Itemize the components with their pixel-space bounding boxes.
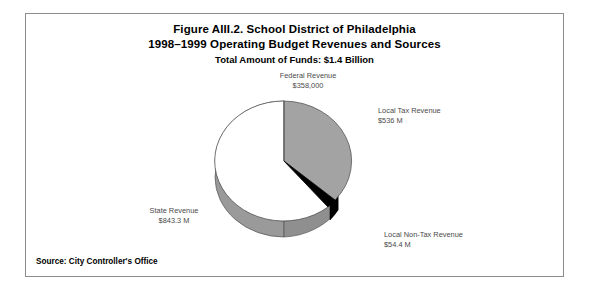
label-local-tax-revenue: Local Tax Revenue $536 M — [378, 106, 508, 125]
source-note: Source: City Controller's Office — [36, 257, 158, 266]
figure-frame: Figure AIII.2. School District of Philad… — [25, 13, 564, 277]
label-local-tax-revenue-name: Local Tax Revenue — [378, 106, 441, 115]
label-federal-revenue: Federal Revenue $358,000 — [248, 71, 368, 90]
label-local-tax-revenue-value: $536 M — [378, 116, 508, 126]
label-federal-revenue-name: Federal Revenue — [280, 71, 337, 80]
pie-chart-stage: Federal Revenue $358,000 Local Tax Reven… — [26, 14, 563, 276]
label-state-revenue: State Revenue $843.3 M — [114, 206, 234, 225]
pie-chart-3d — [204, 86, 364, 251]
label-local-non-tax-revenue: Local Non-Tax Revenue $54.4 M — [384, 230, 524, 249]
label-state-revenue-name: State Revenue — [150, 206, 199, 215]
label-local-non-tax-revenue-name: Local Non-Tax Revenue — [384, 230, 463, 239]
label-local-non-tax-revenue-value: $54.4 M — [384, 240, 524, 250]
label-federal-revenue-value: $358,000 — [248, 81, 368, 91]
label-state-revenue-value: $843.3 M — [114, 216, 234, 226]
